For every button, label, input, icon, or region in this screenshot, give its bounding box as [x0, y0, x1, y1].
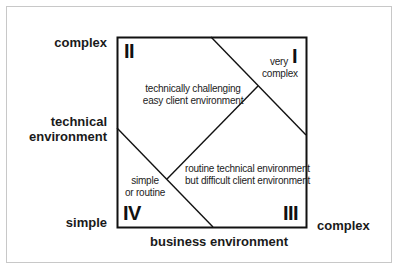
quadrant-ii-line1: technically challenging: [128, 83, 258, 95]
quadrant-numeral-iv: IV: [123, 203, 141, 223]
y-axis-top-label: complex: [40, 35, 107, 50]
quadrant-iii-text: routine technical environment but diffic…: [185, 163, 305, 187]
quadrant-numeral-iii: III: [283, 203, 298, 223]
quadrant-iv-line1: simple: [121, 175, 169, 187]
quadrant-ii-text: technically challenging easy client envi…: [128, 83, 258, 107]
quadrant-numeral-ii: II: [124, 41, 134, 61]
quadrant-iii-line2: but difficult client environment: [185, 175, 305, 187]
quadrant-i-line2: complex: [262, 68, 296, 80]
y-axis-bottom-label: simple: [40, 215, 107, 230]
quadrant-i-line1: very: [262, 56, 296, 68]
y-axis-title-line1: technical: [20, 114, 107, 129]
quadrant-i-text: very complex: [262, 56, 296, 80]
quadrant-iv-line2: or routine: [121, 187, 169, 199]
quadrant-iv-text: simple or routine: [121, 175, 169, 199]
quadrant-iii-line1: routine technical environment: [185, 163, 305, 175]
quadrant-ii-line2: easy client environment: [128, 95, 258, 107]
y-axis-title-line2: environment: [20, 129, 107, 144]
x-axis-right-label: complex: [317, 218, 370, 233]
y-axis-title: technical environment: [20, 114, 107, 144]
x-axis-title: business environment: [150, 234, 288, 249]
